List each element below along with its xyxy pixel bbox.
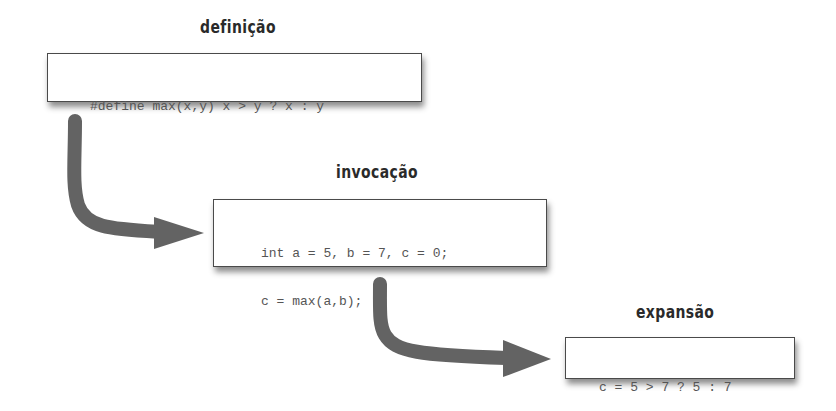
- code-line: #define max(x,y) x > y ? x : y: [90, 98, 421, 116]
- code-line: int a = 5, b = 7, c = 0;: [261, 245, 546, 263]
- code-box-expansion: c = 5 > 7 ? 5 : 7: [565, 337, 795, 379]
- code-box-definition: #define max(x,y) x > y ? x : y: [47, 53, 422, 102]
- stage-label-definition: definição: [200, 17, 276, 37]
- code-box-invocation: int a = 5, b = 7, c = 0; c = max(a,b);: [213, 199, 547, 267]
- code-line: c = max(a,b);: [261, 293, 546, 311]
- arrow-definition-to-invocation-icon: [74, 121, 204, 249]
- stage-label-expansion: expansão: [636, 302, 714, 322]
- code-line: c = 5 > 7 ? 5 : 7: [599, 379, 794, 397]
- stage-label-invocation: invocação: [336, 162, 418, 182]
